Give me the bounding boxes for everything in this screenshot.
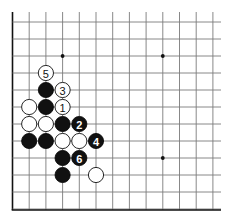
move-number-label: 2: [76, 119, 82, 131]
move-number-label: 4: [93, 136, 100, 148]
black-stone: [55, 167, 70, 182]
move-number-label: 6: [76, 153, 82, 165]
white-stone-icon: [88, 167, 103, 182]
black-stone-6: 6: [72, 150, 87, 165]
move-number-label: 3: [60, 85, 66, 97]
move-number-label: 1: [60, 102, 66, 114]
white-stone: [88, 167, 103, 182]
white-stone-3: 3: [55, 82, 70, 97]
black-stone-4: 4: [88, 133, 103, 148]
white-stone-5: 5: [38, 65, 53, 80]
black-stone-icon: [22, 133, 37, 148]
white-stone-icon: [72, 133, 87, 148]
star-point-icon: [161, 54, 165, 58]
go-board: 531246: [0, 0, 233, 224]
white-stone: [22, 116, 37, 131]
black-stone: [55, 150, 70, 165]
black-stone-icon: [55, 116, 70, 131]
star-point-icon: [61, 54, 65, 58]
white-stone-icon: [38, 116, 53, 131]
black-stone-icon: [38, 82, 53, 97]
black-stone-icon: [55, 167, 70, 182]
white-stone: [38, 116, 53, 131]
black-stone: [38, 99, 53, 114]
white-stone-icon: [22, 99, 37, 114]
white-stone: [55, 133, 70, 148]
white-stone-1: 1: [55, 99, 70, 114]
black-stone: [38, 82, 53, 97]
black-stone-icon: [55, 150, 70, 165]
white-stone-icon: [55, 133, 70, 148]
white-stone-icon: [22, 116, 37, 131]
black-stone: [38, 133, 53, 148]
move-number-label: 5: [43, 68, 49, 80]
white-stone: [72, 133, 87, 148]
black-stone-icon: [38, 99, 53, 114]
black-stone-icon: [38, 133, 53, 148]
star-point-icon: [161, 156, 165, 160]
black-stone: [55, 116, 70, 131]
black-stone-2: 2: [72, 116, 87, 131]
white-stone: [22, 99, 37, 114]
black-stone: [22, 133, 37, 148]
